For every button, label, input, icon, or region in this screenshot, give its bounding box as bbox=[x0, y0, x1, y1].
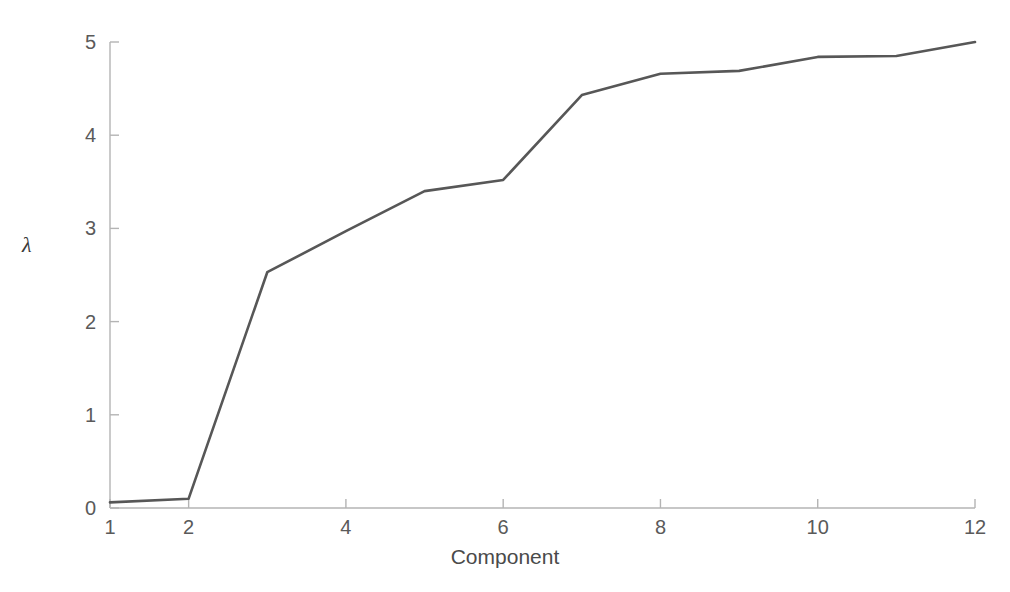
y-axis-tick-label: 2 bbox=[64, 310, 96, 333]
x-axis-tick-marks bbox=[110, 499, 975, 508]
x-axis-tick-label: 2 bbox=[183, 516, 194, 539]
axes-group bbox=[110, 42, 975, 508]
scree-plot-figure: 012345 124681012 λ Component bbox=[0, 0, 1010, 592]
x-axis-tick-label: 10 bbox=[807, 516, 829, 539]
x-axis-tick-label: 12 bbox=[964, 516, 986, 539]
plot-canvas bbox=[0, 0, 1010, 592]
y-axis-tick-label: 5 bbox=[64, 31, 96, 54]
y-axis-tick-label: 1 bbox=[64, 403, 96, 426]
y-axis-tick-label: 3 bbox=[64, 217, 96, 240]
y-axis-tick-label: 0 bbox=[64, 497, 96, 520]
y-axis-tick-marks bbox=[110, 42, 119, 508]
y-axis-tick-label: 4 bbox=[64, 124, 96, 147]
x-axis-tick-label: 8 bbox=[655, 516, 666, 539]
x-axis-tick-label: 6 bbox=[498, 516, 509, 539]
x-axis-tick-label: 4 bbox=[340, 516, 351, 539]
x-axis-title: Component bbox=[0, 545, 1010, 569]
eigenvalue-line-series bbox=[110, 42, 975, 502]
y-axis-title: λ bbox=[22, 232, 32, 258]
x-axis-tick-label: 1 bbox=[104, 516, 115, 539]
